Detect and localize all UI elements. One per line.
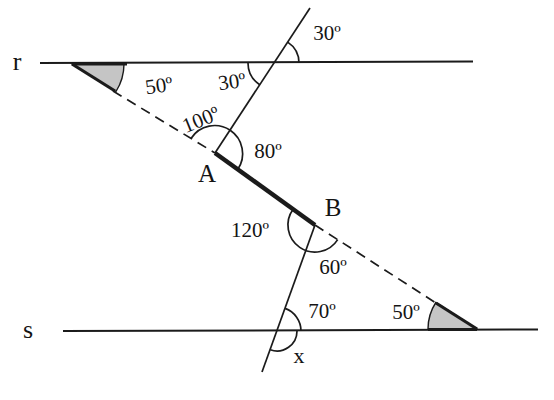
angle-label-50-wedge-r: 50º [144, 74, 174, 99]
angle-label-70-above-s: 70º [308, 301, 336, 322]
angle-label-50-wedge-s: 50º [392, 302, 420, 323]
line-r-label: r [13, 49, 22, 75]
line-s-label: s [23, 317, 33, 343]
arc-70-above-s [285, 308, 301, 331]
geometry-diagram: r s A B 30º 30º 50º 100º 80º 120º 60º 70… [0, 0, 554, 400]
point-b-label: B [325, 195, 342, 220]
point-a-label: A [198, 161, 216, 186]
lower-transversal [262, 225, 315, 372]
angle-label-60-at-b: 60º [319, 257, 347, 278]
angle-label-30-below-r: 30º [217, 70, 247, 95]
angle-label-120-at-b: 120º [231, 220, 269, 241]
diagram-canvas [0, 0, 554, 400]
angle-label-30-above-r: 30º [313, 23, 341, 44]
arc-30-below-r [248, 63, 260, 85]
segment-ab [215, 153, 315, 225]
angle-label-x-below-s: x [294, 345, 305, 367]
arc-30-above-r [288, 42, 299, 63]
angle-label-80-at-a: 80º [254, 141, 282, 162]
